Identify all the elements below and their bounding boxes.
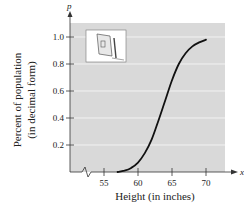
y-tick-label: 0.8: [53, 59, 65, 69]
y-axis-variable: p: [66, 1, 72, 11]
y-axis-label-line2: (in decimal form): [25, 61, 38, 139]
x-axis-arrow: [231, 170, 238, 175]
y-tick-label: 1.0: [53, 32, 65, 42]
y-axis-arrow: [68, 11, 73, 17]
x-tick-label: 65: [168, 178, 178, 188]
inset-illustration: [86, 30, 126, 62]
x-axis-variable: x: [239, 167, 244, 177]
y-tick-label: 0.4: [53, 113, 65, 123]
x-tick-label: 70: [202, 178, 212, 188]
y-tick-label: 0.6: [53, 86, 65, 96]
x-tick-label: 60: [134, 178, 144, 188]
y-tick-label: 0.2: [53, 140, 64, 150]
y-axis-label-line1: Percent of population: [11, 52, 23, 147]
x-axis-label: Height (in inches): [115, 190, 195, 203]
chart: 0.20.40.60.81.0 55606570 p x Height (in …: [0, 0, 244, 213]
x-tick-label: 55: [100, 178, 110, 188]
